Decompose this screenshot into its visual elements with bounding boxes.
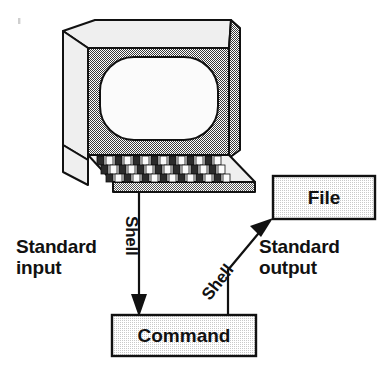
standard-input-label: Standard input — [16, 236, 97, 279]
arrowhead-down — [131, 294, 147, 317]
shell-input-label: Shell — [122, 216, 141, 256]
scan-artifact — [18, 18, 20, 24]
diagram-canvas: Standard input Standard output Shell She… — [0, 0, 388, 379]
diagram-graphics — [0, 0, 388, 379]
arrowhead-upright — [250, 218, 273, 237]
command-box[interactable] — [112, 315, 256, 356]
monitor-screen — [100, 57, 218, 140]
monitor-left-face — [63, 31, 88, 160]
terminal-illustration — [63, 20, 255, 192]
monitor-top-face — [63, 20, 231, 48]
file-box[interactable] — [273, 176, 375, 219]
keyboard-front-strip — [113, 182, 255, 192]
standard-output-label: Standard output — [259, 236, 340, 279]
monitor-right-face — [229, 20, 240, 158]
